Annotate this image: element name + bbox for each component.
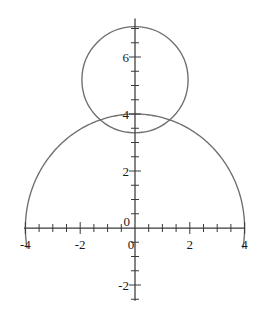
y-tick-label: 4 — [123, 107, 130, 122]
plot-canvas: -4-224-224600 — [0, 0, 260, 310]
x-tick-label: -2 — [75, 237, 86, 252]
y-tick-label: -2 — [118, 278, 129, 293]
origin-label-below: 0 — [128, 237, 135, 252]
y-tick-label: 6 — [123, 50, 130, 65]
x-tick-label: -4 — [20, 237, 31, 252]
origin-label: 0 — [124, 214, 131, 229]
x-tick-label: 2 — [187, 237, 194, 252]
y-tick-label: 2 — [123, 164, 130, 179]
graph-svg: -4-224-224600 — [0, 0, 260, 310]
x-tick-label: 4 — [241, 237, 248, 252]
